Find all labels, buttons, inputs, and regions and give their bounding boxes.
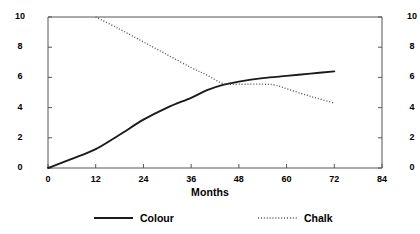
- x-tick-12: 12: [76, 174, 116, 184]
- y-tick-left-6: 6: [0, 71, 40, 81]
- chart-figure: Colour Change Δ E Chalk Rating Months 02…: [0, 0, 420, 234]
- y-tick-right-2: 2: [392, 132, 420, 142]
- x-tick-72: 72: [314, 174, 354, 184]
- y-tick-left-0: 0: [0, 162, 40, 172]
- y-tick-right-0: 0: [392, 162, 420, 172]
- x-tick-48: 48: [219, 174, 259, 184]
- series-line-colour: [48, 71, 334, 168]
- x-tick-24: 24: [123, 174, 163, 184]
- y-tick-right-8: 8: [392, 41, 420, 51]
- y-tick-right-6: 6: [392, 71, 420, 81]
- y-tick-left-8: 8: [0, 41, 40, 51]
- legend-label-chalk: Chalk: [304, 212, 333, 224]
- series-line-chalk: [96, 17, 335, 103]
- y-axis-right-ticks: [378, 17, 382, 168]
- y-tick-right-10: 10: [392, 11, 420, 21]
- y-tick-left-4: 4: [0, 102, 40, 112]
- x-tick-84: 84: [362, 174, 402, 184]
- y-tick-left-10: 10: [0, 11, 40, 21]
- x-axis-title: Months: [0, 186, 420, 198]
- axis-frame: [48, 17, 382, 168]
- chart-plot-area: [0, 0, 420, 234]
- x-tick-36: 36: [171, 174, 211, 184]
- y-tick-right-4: 4: [392, 102, 420, 112]
- x-tick-0: 0: [28, 174, 68, 184]
- y-tick-left-2: 2: [0, 132, 40, 142]
- y-axis-left-ticks: [48, 17, 52, 168]
- legend-label-colour: Colour: [140, 212, 174, 224]
- x-tick-60: 60: [267, 174, 307, 184]
- x-axis-ticks: [48, 164, 382, 168]
